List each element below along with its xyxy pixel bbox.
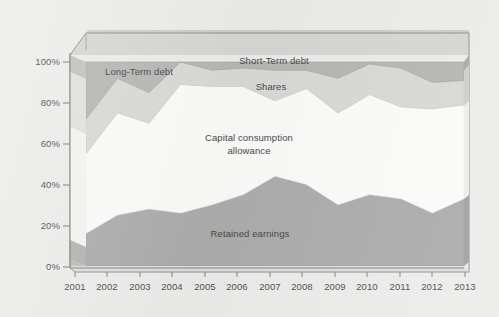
y-tick-label-60: 60% — [18, 138, 60, 149]
chart-back-wall — [70, 33, 469, 55]
y-axis-ticks — [63, 62, 70, 267]
series-label-capital-consumption-line1: Capital consumption — [166, 132, 332, 143]
series-label-capital-consumption-line2: allowance — [166, 145, 332, 156]
series-label-short-term-debt: Short-Term debt — [209, 55, 339, 66]
chart-right-depth-face-shares — [464, 65, 469, 106]
y-tick-label-80: 80% — [18, 97, 60, 108]
chart-left-depth-face-cca — [70, 127, 86, 247]
chart-left-depth-face-shares — [70, 72, 86, 134]
y-tick-label-20: 20% — [18, 220, 60, 231]
y-tick-label-0: 0% — [18, 261, 60, 272]
stacked-area-chart — [0, 0, 499, 317]
chart-floor — [70, 266, 469, 272]
x-axis-ticks — [75, 272, 465, 277]
series-label-shares: Shares — [216, 81, 326, 92]
x-tick-label-2013: 2013 — [445, 281, 485, 292]
chart-right-depth-face-re — [464, 195, 469, 266]
chart-right-depth-face-cca — [464, 101, 469, 199]
chart-figure: 100% 80% 60% 40% 20% 0% 2001 2002 2003 2… — [0, 0, 499, 317]
y-tick-label-40: 40% — [18, 179, 60, 190]
series-label-retained-earnings: Retained earnings — [155, 228, 345, 239]
series-label-long-term-debt: Long-Term debt — [74, 66, 204, 77]
y-tick-label-100: 100% — [18, 56, 60, 67]
